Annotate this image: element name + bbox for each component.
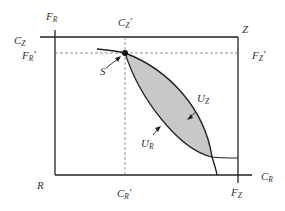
- label-fz-prime: FZ′: [251, 48, 266, 63]
- label-r: R: [36, 179, 44, 191]
- label-cz: CZ: [14, 34, 26, 48]
- label-cr-prime: CR′: [117, 186, 132, 201]
- label-s: S: [100, 65, 106, 77]
- label-fr-prime: FR′: [21, 48, 36, 63]
- label-uz: UZ: [197, 92, 210, 106]
- label-cz-prime: CZ′: [118, 15, 133, 30]
- s-arrow-head: [115, 56, 121, 62]
- label-fr: FR: [45, 10, 58, 24]
- label-cr: CR: [261, 170, 273, 184]
- label-fz: FZ: [230, 186, 243, 200]
- label-ur: UR: [141, 137, 154, 151]
- mutual-gain-lens: [125, 53, 212, 157]
- edgeworth-box-diagram: FR CZ′ Z CZ FR′ FZ′ S UZ UR R CR′ FZ CR: [0, 0, 285, 211]
- s-endowment-point: [122, 50, 128, 56]
- label-z: Z: [242, 23, 249, 35]
